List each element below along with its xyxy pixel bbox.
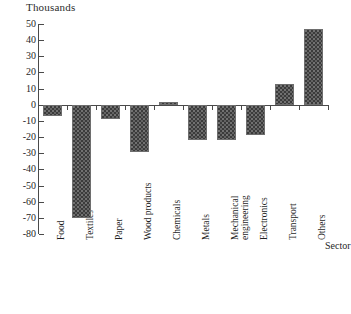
bar (304, 29, 323, 105)
x-axis-tick-mark (212, 105, 213, 110)
x-axis-category-label: Electronics (260, 197, 270, 240)
y-axis-tick-label: -70 (0, 213, 36, 223)
x-axis-category-label: Transport (289, 203, 299, 240)
y-axis-tick-label: -80 (0, 229, 36, 239)
bar (72, 105, 91, 218)
x-axis-category-label: Mechanical engineering (231, 195, 251, 240)
x-axis-tick-mark (154, 105, 155, 110)
bar (130, 105, 149, 152)
x-axis-title: Sector (325, 240, 351, 251)
x-axis-category-label: Paper (115, 218, 125, 240)
y-axis-tick-label: 0 (0, 100, 36, 110)
x-axis-tick-mark (125, 105, 126, 110)
x-axis-tick-mark (270, 105, 271, 110)
bar (188, 105, 207, 141)
x-axis-category-label: Metals (202, 214, 212, 240)
y-axis-tick-label: -50 (0, 181, 36, 191)
x-axis-category-label: Others (318, 215, 328, 240)
y-axis-tick-mark (39, 234, 44, 235)
y-axis-tick-label: -60 (0, 197, 36, 207)
x-axis-tick-mark (299, 105, 300, 110)
x-axis-tick-mark (241, 105, 242, 110)
bar (246, 105, 265, 136)
x-axis-tick-mark (328, 105, 329, 110)
bar (43, 105, 62, 116)
y-axis-tick-label: -20 (0, 132, 36, 142)
y-axis-tick-label: -30 (0, 148, 36, 158)
x-axis-tick-mark (67, 105, 68, 110)
bar (101, 105, 120, 120)
chart-unit-label: Thousands (26, 1, 75, 13)
x-axis-category-label: Food (57, 220, 67, 240)
y-axis-tick-label: 10 (0, 84, 36, 94)
bar (275, 84, 294, 105)
y-axis-tick-label: 40 (0, 35, 36, 45)
y-axis-tick-label: 50 (0, 19, 36, 29)
x-axis-category-label: Wood products (144, 182, 154, 240)
y-axis-tick-label: 30 (0, 51, 36, 61)
y-axis-tick-label: 20 (0, 67, 36, 77)
y-axis-tick-label: -10 (0, 116, 36, 126)
x-axis-tick-mark (96, 105, 97, 110)
bar (159, 102, 178, 105)
x-axis-category-label: Chemicals (173, 200, 183, 240)
bar (217, 105, 236, 141)
x-axis-tick-mark (183, 105, 184, 110)
y-axis-tick-label: -40 (0, 164, 36, 174)
